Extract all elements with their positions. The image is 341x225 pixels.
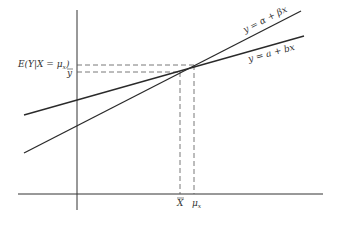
x-bar-label: X	[176, 198, 184, 208]
sample-regression-line	[24, 36, 304, 115]
regression-diagram: y = α + βx y = a + bx E(Y|X = μx) y X μx	[0, 0, 341, 225]
population-regression-line	[24, 11, 301, 153]
conditional-mean-label: E(Y|X = μx)	[17, 59, 70, 70]
y-bar-label: y	[66, 68, 73, 78]
mu-x-label: μx	[192, 198, 202, 209]
population-line-label: y = α + βx	[240, 4, 288, 35]
